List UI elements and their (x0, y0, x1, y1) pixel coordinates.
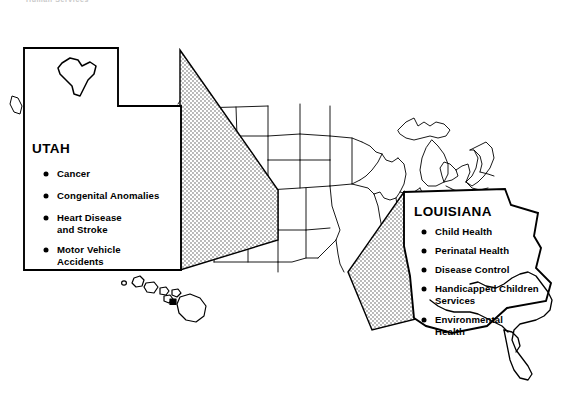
utah-item-0-line1: Cancer (57, 168, 90, 179)
louisiana-bullet-dot-4 (422, 318, 427, 323)
louisiana-bullet-dot-1 (422, 249, 427, 254)
louisiana-bullet-dot-3 (422, 287, 427, 292)
hawaii-islands-icon (122, 276, 206, 322)
louisiana-item-2-line1: Disease Control (435, 264, 510, 275)
utah-bullet-dot-3 (44, 248, 49, 253)
louisiana-item-1-line1: Perinatal Health (435, 245, 509, 256)
utah-item-3-line2: Accidents (57, 256, 104, 267)
utah-item-2-line1: Heart Disease (57, 212, 122, 223)
state-health-priorities-figure: Human Services (0, 0, 585, 400)
baja-fragment (10, 96, 22, 114)
louisiana-item-0-line1: Child Health (435, 226, 492, 237)
utah-bullet-dot-2 (44, 216, 49, 221)
utah-callout-title: UTAH (32, 141, 70, 156)
louisiana-item-4-line2: Health (435, 326, 465, 337)
utah-bullet-dot-0 (44, 172, 49, 177)
louisiana-bullet-dot-0 (422, 230, 427, 235)
utah-item-1-line1: Congenital Anomalies (57, 190, 159, 201)
us-map-svg: UTAH Cancer Congenital Anomalies Heart D… (0, 0, 585, 400)
louisiana-item-3-line1: Handicapped Children (435, 283, 539, 294)
louisiana-item-3-line2: Services (435, 295, 475, 306)
utah-item-2-line2: and Stroke (57, 224, 108, 235)
louisiana-item-4-line1: Environmental (435, 314, 503, 325)
utah-item-3-line1: Motor Vehicle (57, 244, 121, 255)
louisiana-callout-title: LOUISIANA (414, 204, 492, 219)
utah-bullet-dot-1 (44, 194, 49, 199)
louisiana-bullet-dot-2 (422, 268, 427, 273)
